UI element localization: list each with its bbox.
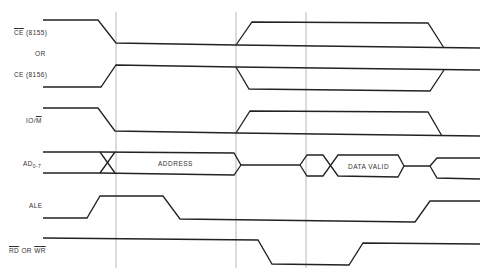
label-iom-pre: IO/: [26, 117, 36, 124]
wave-ale: [43, 196, 480, 222]
label-rd: RD: [9, 247, 19, 254]
wave-ce8155-low: [43, 20, 480, 48]
label-or: OR: [35, 50, 46, 57]
label-rdwr: RD OR WR: [9, 247, 46, 254]
wave-iom-high: [236, 111, 442, 136]
bus-label-address: ADDRESS: [158, 160, 193, 167]
label-ce8155-rest: (8155): [24, 29, 47, 36]
label-ce8156: CE (8156): [14, 71, 47, 78]
wave-rdwr: [43, 238, 480, 265]
bus-label-data-valid: DATA VALID: [348, 163, 389, 170]
wave-ad-left-bot: [43, 152, 115, 173]
label-iom-overbar: M: [36, 117, 42, 124]
label-ale: ALE: [29, 202, 43, 209]
label-iom: IO/M: [26, 117, 42, 124]
wave-ce8156-high: [43, 65, 480, 87]
label-ad-main: AD: [23, 160, 33, 167]
label-ce8155-overbar: CE: [14, 29, 24, 36]
wave-ad-left-top: [43, 152, 115, 173]
label-ad: AD0-7: [23, 160, 41, 169]
label-ce8155: CE (8155): [14, 29, 47, 36]
label-ad-sub: 0-7: [33, 163, 41, 169]
wave-ce8156-low: [236, 67, 444, 91]
wave-ad-right-bot: [430, 166, 480, 179]
label-or-word: OR: [19, 247, 34, 254]
wave-ce8155-high: [236, 22, 444, 48]
timing-diagram-canvas: [0, 0, 486, 273]
label-wr: WR: [34, 247, 46, 254]
